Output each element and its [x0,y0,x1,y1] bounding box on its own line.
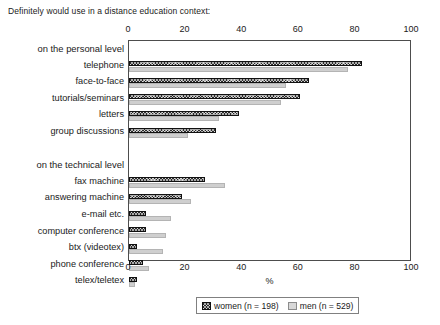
bar-women [129,128,216,133]
category-label: group discussions [50,126,124,137]
bar-women [129,244,137,249]
bar-women [129,194,182,199]
x-tick-label: 100 [403,24,418,34]
legend-item-men: men (n = 529) [288,301,354,311]
category-label: letters [99,109,124,120]
category-label: answering machine [45,192,124,203]
bar-men [129,100,281,105]
bars-layer [129,41,410,260]
x-tick-label: 40 [236,262,246,272]
bar-men [129,67,348,72]
chart-legend: women (n = 198) men (n = 529) [196,297,359,314]
bar-women [129,61,362,66]
x-axis-label: % [128,276,411,286]
category-label: face-to-face [75,76,124,87]
group-heading-label: on the technical level [36,159,124,170]
x-tick-label: 80 [349,262,359,272]
category-label: btx (videotex) [69,242,124,253]
x-tick-label: 20 [180,262,190,272]
x-tick-label: 100 [403,262,418,272]
x-tick-label: 80 [349,24,359,34]
category-label: telex/teletex [75,275,124,286]
legend-swatch-women-icon [202,302,211,310]
bar-men [129,249,163,254]
x-tick-label: 60 [293,262,303,272]
bar-women [129,111,239,116]
bar-women [129,78,309,83]
bar-men [129,83,286,88]
x-axis-top-ticks: 020406080100 [128,24,411,38]
x-tick-label: 40 [236,24,246,34]
bar-women [129,94,300,99]
bar-men [129,233,166,238]
bar-women [129,227,146,232]
x-axis-bottom-ticks: 020406080100 [128,262,411,276]
category-label: computer conference [38,226,124,237]
category-label: tutorials/seminars [52,93,124,104]
chart-container: Definitely would use in a distance educa… [0,0,440,325]
category-label: phone conference [50,259,124,270]
category-label: e-mail etc. [82,209,124,220]
x-tick-label: 20 [180,24,190,34]
legend-label-men: men (n = 529) [300,301,354,311]
legend-swatch-men-icon [288,302,297,310]
bar-women [129,211,146,216]
bar-men [129,216,171,221]
category-label: telephone [84,60,124,71]
group-heading-label: on the personal level [37,43,124,54]
legend-label-women: women (n = 198) [214,301,279,311]
x-tick-label: 60 [293,24,303,34]
x-tick-label: 0 [125,262,130,272]
bar-men [129,133,188,138]
legend-item-women: women (n = 198) [202,301,279,311]
category-labels: on the personal leveltelephoneface-to-fa… [0,40,124,261]
bar-men [129,183,225,188]
bar-men [129,116,219,121]
bar-women [129,177,205,182]
category-label: fax machine [74,176,124,187]
x-tick-label: 0 [125,24,130,34]
chart-title: Definitely would use in a distance educa… [8,6,210,16]
bar-men [129,199,191,204]
